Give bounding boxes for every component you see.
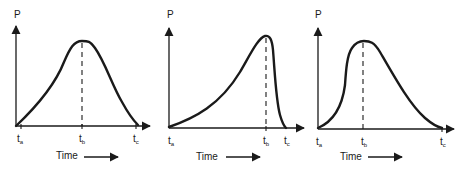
- x-axis-label: Time: [56, 150, 78, 161]
- label-tb: tb: [361, 136, 368, 148]
- y-axis-label: P: [14, 9, 21, 20]
- label-tc: tc: [440, 136, 446, 148]
- label-tb: tb: [79, 133, 86, 145]
- y-axis-label: P: [167, 9, 174, 20]
- x-axis-label: Time: [340, 151, 362, 162]
- label-tc: tc: [133, 133, 139, 145]
- label-ta: ta: [316, 136, 323, 148]
- p-curve: [318, 41, 442, 128]
- label-tc: tc: [284, 135, 290, 147]
- label-tb: tb: [263, 135, 270, 147]
- p-curve: [16, 41, 138, 126]
- panel-late-peak: P ta tb tc Time: [167, 9, 304, 162]
- panel-early-peak: P ta tb tc Time: [315, 9, 454, 162]
- x-axis-label: Time: [196, 151, 218, 162]
- label-ta: ta: [17, 133, 24, 145]
- label-ta: ta: [168, 135, 175, 147]
- panel-symmetric-peak: P ta tb tc Time: [14, 9, 150, 161]
- p-curve: [169, 36, 286, 128]
- y-axis-label: P: [315, 9, 322, 20]
